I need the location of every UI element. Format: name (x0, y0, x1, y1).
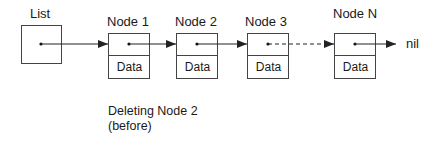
caption-line-2: (before) (108, 119, 198, 134)
node-label-3: Node 3 (245, 15, 287, 29)
node-label-2: Node 2 (175, 15, 217, 29)
diagram-caption: Deleting Node 2 (before) (108, 104, 198, 134)
list-head-label: List (30, 7, 50, 21)
node-data-field-n: Data (335, 60, 376, 74)
node-label-n: Node N (333, 7, 377, 21)
node-data-field-1: Data (109, 60, 150, 74)
node-label-1: Node 1 (107, 15, 149, 29)
node-data-field-3: Data (248, 60, 289, 74)
nil-terminator-label: nil (406, 37, 419, 51)
node-data-field-2: Data (177, 60, 218, 74)
caption-line-1: Deleting Node 2 (108, 104, 198, 119)
